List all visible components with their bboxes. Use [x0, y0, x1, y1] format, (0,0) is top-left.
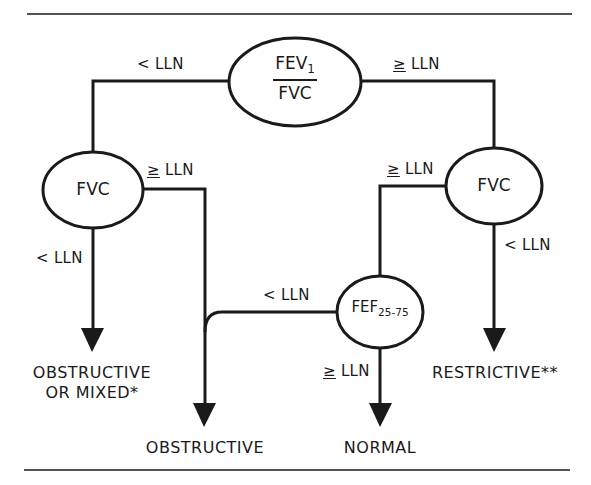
label-root-ge: ≥ LLN — [393, 57, 440, 72]
lln-text: LLN — [341, 362, 370, 380]
lln-text: LLN — [281, 286, 310, 304]
fef-sub: 25-75 — [378, 306, 409, 318]
root-numerator-sub: 1 — [307, 62, 315, 76]
lt-symbol: < — [504, 236, 517, 254]
arrowhead-obstructive-mixed — [81, 328, 104, 352]
outcome-restrictive: RESTRICTIVE** — [425, 363, 565, 383]
ge-symbol: ≥ — [147, 161, 160, 179]
lt-symbol: < — [137, 55, 150, 73]
lt-symbol: < — [263, 286, 276, 304]
edge-root-lt — [93, 81, 229, 152]
root-denominator: FVC — [278, 81, 311, 102]
outcome-obstructive: OBSTRUCTIVE — [135, 438, 275, 458]
label-left-fvc-lt: < LLN — [36, 251, 83, 266]
arrowhead-obstructive — [193, 403, 216, 427]
outcome-normal: NORMAL — [330, 438, 430, 458]
label-right-fvc-lt: < LLN — [504, 238, 551, 253]
lln-text: LLN — [165, 161, 194, 179]
outcome-line-2: OR MIXED* — [22, 383, 162, 403]
node-fef: FEF25-75 — [340, 300, 420, 318]
root-numerator-text: FEV — [275, 53, 307, 73]
edge-root-ge — [361, 81, 494, 148]
outcome-obstructive-or-mixed: OBSTRUCTIVE OR MIXED* — [22, 363, 162, 403]
label-left-fvc-ge: ≥ LLN — [147, 163, 194, 178]
edge-right-fvc-ge — [380, 186, 446, 276]
node-left-fvc: FVC — [58, 181, 128, 198]
node-root: FEV1 FVC — [259, 55, 331, 102]
ge-symbol: ≥ — [387, 160, 400, 178]
label-fef-lt: < LLN — [263, 288, 310, 303]
lln-text: LLN — [522, 236, 551, 254]
lln-text: LLN — [54, 249, 83, 267]
lln-text: LLN — [411, 55, 440, 73]
arrowhead-normal — [369, 403, 392, 427]
edge-fef-lt — [205, 312, 337, 332]
ge-symbol: ≥ — [323, 362, 336, 380]
label-root-lt: < LLN — [137, 57, 184, 72]
lln-text: LLN — [155, 55, 184, 73]
ge-symbol: ≥ — [393, 55, 406, 73]
arrowhead-restrictive — [483, 328, 506, 352]
fef-label: FEF — [351, 298, 378, 316]
lt-symbol: < — [36, 249, 49, 267]
lln-text: LLN — [405, 160, 434, 178]
label-fef-ge: ≥ LLN — [323, 364, 370, 379]
root-numerator: FEV1 — [273, 55, 317, 81]
label-right-fvc-ge: ≥ LLN — [387, 162, 434, 177]
node-right-fvc: FVC — [459, 177, 529, 194]
outcome-line-1: OBSTRUCTIVE — [22, 363, 162, 383]
